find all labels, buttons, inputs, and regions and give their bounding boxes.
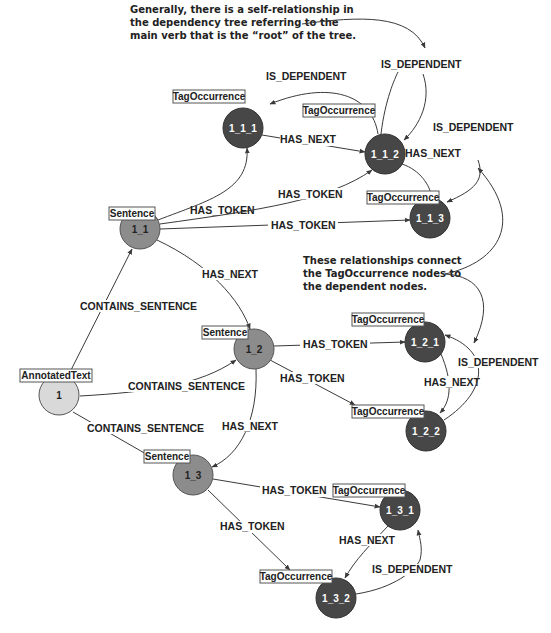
node-tag-occurrence-1-3-2[interactable]: 1_3_2 TagOccurrence	[260, 570, 356, 618]
dependency-graph: Generally, there is a self-relationship …	[0, 0, 551, 633]
svg-text:IS_DEPENDENT: IS_DEPENDENT	[372, 563, 453, 575]
svg-text:HAS_NEXT: HAS_NEXT	[424, 376, 481, 388]
svg-text:IS_DEPENDENT: IS_DEPENDENT	[458, 356, 539, 368]
node-sentence-1-3[interactable]: 1_3 Sentence	[144, 450, 213, 495]
svg-text:IS_DEPENDENT: IS_DEPENDENT	[433, 121, 514, 133]
svg-text:Sentence: Sentence	[145, 451, 190, 462]
svg-text:1_3_1: 1_3_1	[386, 505, 414, 516]
svg-text:TagOccurrence: TagOccurrence	[367, 192, 440, 203]
node-tag-occurrence-1-2-2[interactable]: 1_2_2 TagOccurrence	[352, 405, 446, 451]
svg-text:HAS_TOKEN: HAS_TOKEN	[303, 338, 368, 350]
svg-text:HAS_TOKEN: HAS_TOKEN	[220, 520, 285, 532]
svg-text:HAS_NEXT: HAS_NEXT	[339, 534, 396, 546]
svg-text:1_1_2: 1_1_2	[371, 149, 399, 160]
svg-text:HAS_NEXT: HAS_NEXT	[222, 420, 279, 432]
node-tag-occurrence-1-1-1[interactable]: 1_1_1 TagOccurrence	[173, 90, 263, 148]
svg-text:These relationships connect: These relationships connect	[303, 255, 462, 266]
edge-has-token-11-111: HAS_TOKEN	[158, 148, 255, 220]
svg-text:TagOccurrence: TagOccurrence	[352, 314, 425, 325]
svg-text:CONTAINS_SENTENCE: CONTAINS_SENTENCE	[87, 422, 204, 434]
svg-text:CONTAINS_SENTENCE: CONTAINS_SENTENCE	[80, 300, 197, 312]
svg-text:Sentence: Sentence	[203, 327, 248, 338]
edge-contains-sentence-1-1: CONTAINS_SENTENCE	[68, 249, 197, 376]
svg-text:1_2: 1_2	[246, 344, 263, 355]
svg-text:HAS_NEXT: HAS_NEXT	[405, 147, 462, 159]
svg-text:HAS_NEXT: HAS_NEXT	[280, 133, 337, 145]
svg-text:the dependent nodes.: the dependent nodes.	[303, 281, 427, 292]
svg-text:TagOccurrence: TagOccurrence	[333, 485, 406, 496]
svg-text:TagOccurrence: TagOccurrence	[303, 105, 376, 116]
svg-text:HAS_TOKEN: HAS_TOKEN	[278, 188, 343, 200]
svg-text:TagOccurrence: TagOccurrence	[173, 91, 246, 102]
svg-text:1_1_1: 1_1_1	[229, 123, 257, 134]
edge-contains-sentence-1-2: CONTAINS_SENTENCE	[80, 360, 245, 396]
svg-text:1_1: 1_1	[132, 224, 149, 235]
svg-text:1_2_2: 1_2_2	[412, 426, 440, 437]
svg-text:AnnotatedText: AnnotatedText	[21, 370, 91, 381]
node-annotated-text-1[interactable]: 1 AnnotatedText	[20, 369, 92, 415]
node-sentence-1-1[interactable]: 1_1 Sentence	[109, 207, 160, 249]
svg-text:the dependency tree referring: the dependency tree referring to the	[130, 17, 339, 28]
annotation-arrow-lower	[445, 274, 484, 343]
edge-is-dependent-112-111: IS_DEPENDENT	[264, 70, 378, 134]
svg-text:HAS_TOKEN: HAS_TOKEN	[190, 204, 255, 216]
svg-text:HAS_TOKEN: HAS_TOKEN	[271, 219, 336, 231]
svg-text:IS_DEPENDENT: IS_DEPENDENT	[381, 58, 462, 70]
svg-text:HAS_TOKEN: HAS_TOKEN	[262, 484, 327, 496]
edge-has-token-12-121: HAS_TOKEN	[274, 338, 405, 350]
node-sentence-1-2[interactable]: 1_2 Sentence	[202, 326, 274, 369]
node-tag-occurrence-1-3-1[interactable]: 1_3_1 TagOccurrence	[333, 484, 420, 530]
svg-text:CONTAINS_SENTENCE: CONTAINS_SENTENCE	[128, 380, 245, 392]
svg-text:TagOccurrence: TagOccurrence	[352, 406, 425, 417]
svg-text:the TagOccurrence nodes to: the TagOccurrence nodes to	[303, 268, 461, 279]
svg-text:HAS_TOKEN: HAS_TOKEN	[280, 372, 345, 384]
edge-has-token-12-122: HAS_TOKEN	[270, 360, 355, 405]
edge-has-token-11-113: HAS_TOKEN	[160, 219, 410, 232]
annotation-self-relationship: Generally, there is a self-relationship …	[130, 4, 425, 48]
svg-text:1_3_2: 1_3_2	[322, 593, 350, 604]
svg-text:IS_DEPENDENT: IS_DEPENDENT	[266, 70, 347, 82]
svg-text:Generally, there is a self-rel: Generally, there is a self-relationship …	[130, 4, 354, 15]
node-tag-occurrence-1-1-3[interactable]: 1_1_3 TagOccurrence	[367, 191, 450, 238]
edge-has-next-111-112: HAS_NEXT	[262, 133, 365, 152]
svg-text:HAS_NEXT: HAS_NEXT	[202, 268, 259, 280]
svg-text:TagOccurrence: TagOccurrence	[260, 571, 333, 582]
svg-text:1_2_1: 1_2_1	[411, 337, 439, 348]
svg-text:1: 1	[56, 390, 62, 401]
svg-text:1_1_3: 1_1_3	[416, 213, 444, 224]
edge-has-next-11-12: HAS_NEXT	[157, 240, 259, 329]
edge-is-dependent-112-113: IS_DEPENDENT	[405, 120, 516, 202]
svg-text:1_3: 1_3	[185, 470, 202, 481]
svg-text:main verb that is the “root” o: main verb that is the “root” of the tree…	[130, 30, 356, 41]
edge-has-next-112-113: HAS_NEXT	[402, 147, 462, 198]
svg-text:Sentence: Sentence	[110, 208, 155, 219]
edge-has-token-13-132: HAS_TOKEN	[208, 490, 290, 570]
